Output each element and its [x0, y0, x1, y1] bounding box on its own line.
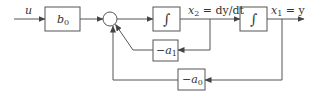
x1-signal-label: x1 = y — [271, 4, 306, 18]
a1-to-sum-line — [116, 25, 154, 51]
integrator-1-icon: ∫ — [163, 11, 170, 27]
block-diagram: u b0 ∫ ∫ −a1 −a0 x2 = dy/dt x1 = y — [0, 0, 315, 95]
input-label: u — [25, 4, 32, 17]
x2-feedback-line — [178, 19, 210, 50]
x2-signal-label: x2 = dy/dt — [188, 4, 245, 18]
integrator-2-icon: ∫ — [250, 11, 257, 27]
summing-junction — [103, 12, 117, 26]
